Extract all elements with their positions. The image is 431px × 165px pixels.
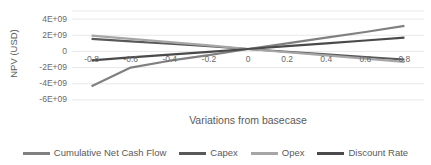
y-tick-label: 0 (19, 46, 67, 56)
legend-item[interactable]: Opex (251, 148, 305, 158)
chart-legend: Cumulative Net Cash FlowCapexOpexDiscoun… (0, 143, 431, 163)
x-axis-title: Variations from basecase (72, 114, 424, 126)
legend-line-icon (251, 152, 278, 155)
legend-item-label: Cumulative Net Cash Flow (54, 148, 166, 158)
y-tick-label: -6E+09 (19, 94, 67, 104)
legend-item-label: Opex (282, 148, 305, 158)
x-tick-label: 0.6 (350, 54, 380, 64)
y-tick-label: -4E+09 (19, 78, 67, 88)
legend-line-icon (23, 152, 50, 155)
legend-item[interactable]: Cumulative Net Cash Flow (23, 148, 166, 158)
y-tick-label: 2E+09 (19, 30, 67, 40)
legend-item-label: Discount Rate (348, 148, 408, 158)
x-tick-label: -0.2 (194, 54, 224, 64)
legend-line-icon (179, 152, 206, 155)
chart-container: NPV (USD) Variations from basecase 4E+09… (0, 0, 431, 165)
x-tick-label: 0.8 (389, 54, 419, 64)
y-tick-label: -2E+09 (19, 62, 67, 72)
x-tick-label: 0.2 (272, 54, 302, 64)
legend-item[interactable]: Discount Rate (317, 148, 408, 158)
legend-line-icon (317, 152, 344, 155)
x-tick-label: -0.8 (77, 54, 107, 64)
y-axis-title: NPV (USD) (8, 15, 19, 93)
legend-item-label: Capex (210, 148, 237, 158)
legend-item[interactable]: Capex (179, 148, 237, 158)
x-tick-label: -0.4 (155, 54, 185, 64)
x-tick-label: 0 (233, 54, 263, 64)
x-tick-label: -0.6 (116, 54, 146, 64)
y-tick-label: 4E+09 (19, 14, 67, 24)
x-tick-label: 0.4 (311, 54, 341, 64)
